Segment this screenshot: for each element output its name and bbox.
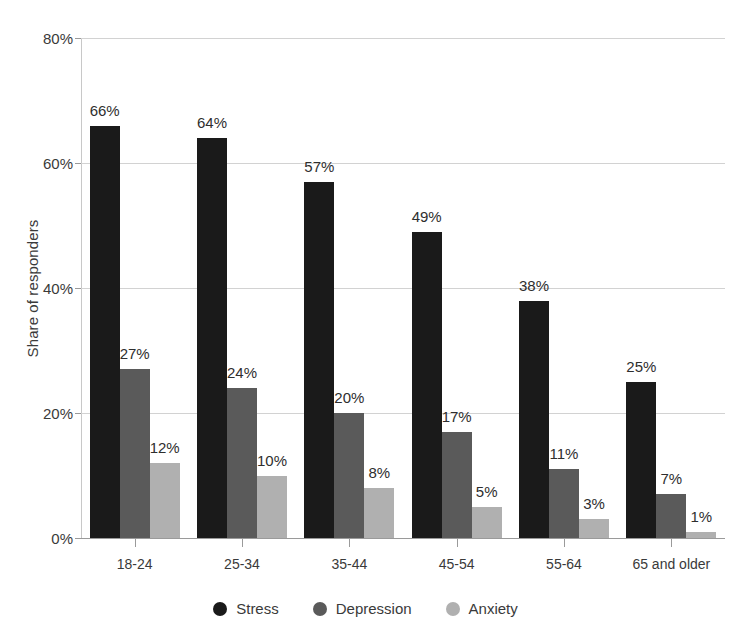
- bar-value-label: 24%: [227, 364, 257, 381]
- bar-stress-45-54[interactable]: [412, 232, 442, 538]
- y-axis-tick-mark: [75, 288, 81, 289]
- bar-value-label: 12%: [150, 439, 180, 456]
- legend-swatch-circle-icon: [213, 602, 227, 616]
- legend-item-stress[interactable]: Stress: [213, 600, 279, 617]
- gridline: [81, 38, 725, 39]
- bar-value-label: 25%: [626, 358, 656, 375]
- legend-item-depression[interactable]: Depression: [313, 600, 412, 617]
- plot-area: [81, 38, 725, 538]
- x-axis-tick-mark: [135, 539, 136, 547]
- legend-item-anxiety[interactable]: Anxiety: [446, 600, 518, 617]
- bar-depression-55-64[interactable]: [549, 469, 579, 538]
- x-axis-tick-label: 55-64: [546, 556, 582, 572]
- x-axis-line: [81, 538, 725, 539]
- bar-depression-18-24[interactable]: [120, 369, 150, 538]
- x-axis-tick-mark: [564, 539, 565, 547]
- bar-anxiety-55-64[interactable]: [579, 519, 609, 538]
- x-axis-tick-label: 35-44: [331, 556, 367, 572]
- bar-depression-25-34[interactable]: [227, 388, 257, 538]
- bar-value-label: 38%: [519, 277, 549, 294]
- bar-depression-45-54[interactable]: [442, 432, 472, 538]
- x-axis-tick-label: 25-34: [224, 556, 260, 572]
- x-axis-tick-label: 18-24: [117, 556, 153, 572]
- bar-value-label: 3%: [583, 495, 605, 512]
- bar-anxiety-18-24[interactable]: [150, 463, 180, 538]
- y-axis-tick-label: 40%: [11, 280, 73, 297]
- legend-swatch-circle-icon: [313, 602, 327, 616]
- bar-value-label: 5%: [476, 483, 498, 500]
- bar-stress-35-44[interactable]: [304, 182, 334, 538]
- bar-value-label: 49%: [412, 208, 442, 225]
- y-axis-tick-mark: [75, 413, 81, 414]
- y-axis-tick-mark: [75, 163, 81, 164]
- bar-stress-25-34[interactable]: [197, 138, 227, 538]
- bar-chart: Share of responders 0%20%40%60%80% 18-24…: [0, 0, 731, 644]
- bar-anxiety-45-54[interactable]: [472, 507, 502, 538]
- bar-depression-35-44[interactable]: [334, 413, 364, 538]
- legend-label: Depression: [336, 600, 412, 617]
- bar-value-label: 66%: [90, 102, 120, 119]
- bar-anxiety-65-and-older[interactable]: [686, 532, 716, 538]
- bar-value-label: 1%: [690, 508, 712, 525]
- bar-stress-18-24[interactable]: [90, 126, 120, 539]
- bar-value-label: 7%: [660, 470, 682, 487]
- y-axis-tick-label: 20%: [11, 405, 73, 422]
- bar-value-label: 20%: [334, 389, 364, 406]
- y-axis-tick-label: 0%: [11, 530, 73, 547]
- bar-value-label: 10%: [257, 452, 287, 469]
- y-axis-tick-labels: 0%20%40%60%80%: [0, 0, 73, 644]
- bar-anxiety-25-34[interactable]: [257, 476, 287, 539]
- x-axis-tick-label: 65 and older: [632, 556, 710, 572]
- legend-label: Anxiety: [469, 600, 518, 617]
- bar-depression-65-and-older[interactable]: [656, 494, 686, 538]
- bar-stress-55-64[interactable]: [519, 301, 549, 539]
- gridline: [81, 163, 725, 164]
- bar-value-label: 8%: [368, 464, 390, 481]
- bar-value-label: 57%: [304, 158, 334, 175]
- y-axis-tick-mark: [75, 538, 81, 539]
- x-axis-tick-mark: [242, 539, 243, 547]
- y-axis-tick-mark: [75, 38, 81, 39]
- bar-value-label: 11%: [550, 445, 579, 462]
- chart-legend: StressDepressionAnxiety: [0, 600, 731, 617]
- bar-value-label: 64%: [197, 114, 227, 131]
- x-axis-tick-mark: [349, 539, 350, 547]
- x-axis-tick-mark: [671, 539, 672, 547]
- y-axis-tick-label: 60%: [11, 155, 73, 172]
- gridline: [81, 288, 725, 289]
- bar-value-label: 27%: [120, 345, 150, 362]
- bar-stress-65-and-older[interactable]: [626, 382, 656, 538]
- legend-swatch-circle-icon: [446, 602, 460, 616]
- bar-anxiety-35-44[interactable]: [364, 488, 394, 538]
- bar-value-label: 17%: [442, 408, 472, 425]
- x-axis-tick-label: 45-54: [439, 556, 475, 572]
- x-axis-tick-mark: [457, 539, 458, 547]
- legend-label: Stress: [236, 600, 279, 617]
- y-axis-tick-label: 80%: [11, 30, 73, 47]
